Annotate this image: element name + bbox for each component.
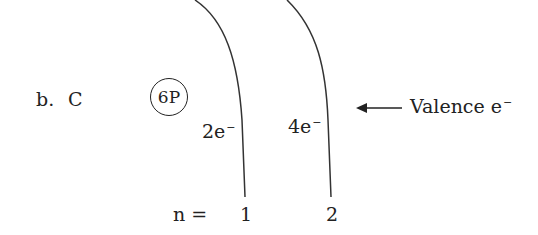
arrow-left-icon <box>356 103 402 113</box>
valence-label: Valence e− <box>410 97 512 116</box>
shell-arcs <box>0 0 538 235</box>
shell-arc-2 <box>287 0 331 197</box>
shell-1-electrons: 2e− <box>202 122 236 141</box>
nucleus: 6P <box>150 78 188 116</box>
element-symbol: C <box>68 90 83 109</box>
nucleus-label: 6P <box>158 87 180 107</box>
shell-1-number: 1 <box>240 205 252 224</box>
shell-2-number: 2 <box>326 205 338 224</box>
shell-arc-1 <box>195 0 245 197</box>
part-label: b. <box>36 90 54 109</box>
n-label: n = <box>173 205 207 224</box>
shell-2-electrons: 4e− <box>288 117 322 136</box>
